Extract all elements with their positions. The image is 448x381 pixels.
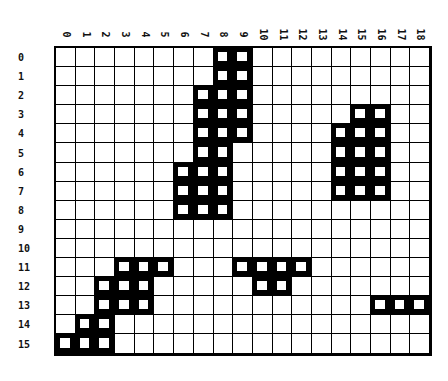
empty-cell xyxy=(56,315,76,334)
empty-cell xyxy=(76,182,96,201)
empty-cell xyxy=(312,124,332,143)
empty-cell xyxy=(76,277,96,296)
filled-cell xyxy=(115,296,135,315)
empty-cell xyxy=(154,220,174,239)
filled-cell xyxy=(391,296,411,315)
filled-cell xyxy=(194,86,214,105)
filled-cell xyxy=(233,105,253,124)
column-label: 3 xyxy=(115,8,135,40)
filled-cell xyxy=(371,296,391,315)
empty-cell xyxy=(410,277,430,296)
column-label-text: 11 xyxy=(277,28,288,40)
row-label: 10 xyxy=(18,239,48,258)
empty-cell xyxy=(273,220,293,239)
row-label: 7 xyxy=(18,182,48,201)
empty-cell xyxy=(312,334,332,353)
empty-cell xyxy=(273,239,293,258)
empty-cell xyxy=(292,182,312,201)
empty-cell xyxy=(410,220,430,239)
column-label-text: 0 xyxy=(60,31,71,37)
empty-cell xyxy=(174,124,194,143)
empty-cell xyxy=(332,258,352,277)
empty-cell xyxy=(154,315,174,334)
empty-cell xyxy=(391,86,411,105)
filled-cell xyxy=(214,201,234,220)
empty-cell xyxy=(351,86,371,105)
empty-cell xyxy=(76,163,96,182)
empty-cell xyxy=(351,239,371,258)
empty-cell xyxy=(273,163,293,182)
column-label: 9 xyxy=(233,8,253,40)
empty-cell xyxy=(233,334,253,353)
empty-cell xyxy=(371,315,391,334)
row-label: 6 xyxy=(18,163,48,182)
empty-cell xyxy=(371,48,391,67)
empty-cell xyxy=(391,182,411,201)
empty-cell xyxy=(154,182,174,201)
empty-cell xyxy=(194,220,214,239)
empty-cell xyxy=(174,239,194,258)
column-label: 10 xyxy=(253,8,273,40)
empty-cell xyxy=(371,258,391,277)
empty-cell xyxy=(174,334,194,353)
empty-cell xyxy=(332,315,352,334)
column-label-text: 10 xyxy=(257,28,268,40)
empty-cell xyxy=(351,67,371,86)
empty-cell xyxy=(115,67,135,86)
filled-cell xyxy=(371,143,391,162)
empty-cell xyxy=(76,86,96,105)
empty-cell xyxy=(273,48,293,67)
empty-cell xyxy=(253,334,273,353)
empty-cell xyxy=(371,239,391,258)
empty-cell xyxy=(76,220,96,239)
empty-cell xyxy=(56,182,76,201)
filled-cell xyxy=(194,182,214,201)
empty-cell xyxy=(115,315,135,334)
filled-cell xyxy=(95,334,115,353)
empty-cell xyxy=(391,258,411,277)
empty-cell xyxy=(154,86,174,105)
filled-cell xyxy=(115,277,135,296)
empty-cell xyxy=(253,86,273,105)
empty-cell xyxy=(312,296,332,315)
empty-cell xyxy=(391,105,411,124)
empty-cell xyxy=(135,182,155,201)
column-label: 16 xyxy=(371,8,391,40)
column-label: 18 xyxy=(411,8,431,40)
empty-cell xyxy=(76,48,96,67)
filled-cell xyxy=(174,182,194,201)
empty-cell xyxy=(135,143,155,162)
empty-cell xyxy=(273,334,293,353)
empty-cell xyxy=(351,201,371,220)
empty-cell xyxy=(95,143,115,162)
column-label: 11 xyxy=(273,8,293,40)
empty-cell xyxy=(76,124,96,143)
empty-cell xyxy=(410,182,430,201)
row-label: 8 xyxy=(18,201,48,220)
empty-cell xyxy=(174,105,194,124)
filled-cell xyxy=(214,48,234,67)
empty-cell xyxy=(214,315,234,334)
empty-cell xyxy=(332,201,352,220)
empty-cell xyxy=(273,296,293,315)
empty-cell xyxy=(253,239,273,258)
row-label: 0 xyxy=(18,48,48,67)
empty-cell xyxy=(312,182,332,201)
filled-cell xyxy=(332,163,352,182)
column-label-text: 13 xyxy=(316,28,327,40)
empty-cell xyxy=(214,239,234,258)
row-label: 12 xyxy=(18,277,48,296)
empty-cell xyxy=(410,86,430,105)
empty-cell xyxy=(135,48,155,67)
empty-cell xyxy=(135,86,155,105)
empty-cell xyxy=(95,220,115,239)
column-label-text: 8 xyxy=(218,31,229,37)
empty-cell xyxy=(312,143,332,162)
column-label-text: 7 xyxy=(198,31,209,37)
empty-cell xyxy=(312,201,332,220)
column-label-text: 17 xyxy=(395,28,406,40)
empty-cell xyxy=(253,182,273,201)
column-label: 6 xyxy=(174,8,194,40)
empty-cell xyxy=(292,105,312,124)
filled-cell xyxy=(194,163,214,182)
